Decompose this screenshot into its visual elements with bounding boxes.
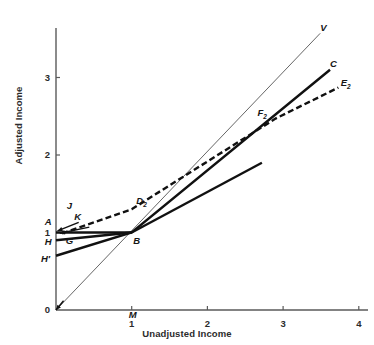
point-label-V: V xyxy=(320,22,326,33)
tick-marks-group xyxy=(56,78,359,311)
y-tick-label-0: 0 xyxy=(30,304,50,315)
series-V xyxy=(56,33,320,310)
point-label-K: K xyxy=(74,211,81,222)
y-tick-label-2: 2 xyxy=(30,149,50,160)
series-E2 xyxy=(62,88,338,234)
y-tick-label-1: 1 xyxy=(30,227,50,238)
data-series-group xyxy=(56,33,338,310)
y-axis-title: Adjusted Income xyxy=(13,56,24,196)
series-C xyxy=(56,70,330,256)
x-axis-title: Unadjusted Income xyxy=(0,328,374,339)
x-tick-label-4: 4 xyxy=(349,318,369,329)
x-tick-label-3: 3 xyxy=(273,318,293,329)
point-label-F2: F2 xyxy=(257,107,266,120)
point-label-E2: E2 xyxy=(341,77,351,90)
y-tick-label-3: 3 xyxy=(30,72,50,83)
point-label-subscript: 2 xyxy=(263,113,267,120)
point-label-G: G xyxy=(66,235,73,246)
point-label-H: H′ xyxy=(41,253,50,264)
point-label-subscript: 2 xyxy=(143,200,147,207)
chart-canvas xyxy=(0,0,374,345)
point-label-D2: D2 xyxy=(136,195,147,208)
point-label-J: J xyxy=(67,200,72,211)
point-label-B: B xyxy=(133,235,140,246)
point-label-H: H xyxy=(45,236,52,247)
point-label-subscript: 2 xyxy=(347,83,351,90)
x-tick-label-2: 2 xyxy=(197,318,217,329)
axes-group xyxy=(56,28,368,310)
x-tick-label-1: 1 xyxy=(122,318,142,329)
point-label-C: C xyxy=(330,58,337,69)
